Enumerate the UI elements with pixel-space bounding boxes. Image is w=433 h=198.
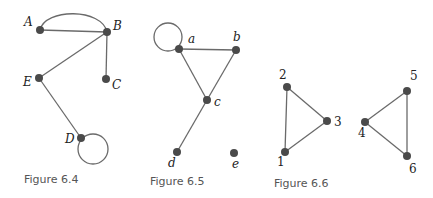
- edge-a-c: [179, 49, 207, 100]
- label-3: 3: [334, 115, 342, 129]
- label-A: A: [23, 15, 33, 29]
- node-B: [103, 28, 111, 36]
- edge-E-D: [39, 78, 81, 138]
- node-e: [230, 149, 238, 157]
- node-6: [403, 152, 411, 160]
- edge-B-C: [106, 32, 107, 79]
- caption-figure-6-5: Figure 6.5: [150, 175, 205, 188]
- label-6: 6: [409, 162, 417, 176]
- node-c: [203, 96, 211, 104]
- caption-figure-6-6: Figure 6.6: [274, 177, 329, 190]
- node-3: [323, 117, 331, 125]
- edge-4-5: [365, 91, 407, 122]
- figure-6-5: a b c d e Figure 6.5: [150, 23, 241, 188]
- label-1: 1: [277, 155, 285, 169]
- node-E: [35, 74, 43, 82]
- edge-2-3: [287, 87, 327, 121]
- label-B: B: [112, 19, 122, 33]
- label-C: C: [112, 78, 121, 92]
- node-4: [361, 118, 369, 126]
- node-C: [102, 75, 110, 83]
- node-a: [175, 45, 183, 53]
- label-4: 4: [358, 126, 366, 140]
- edge-b-c: [207, 50, 236, 100]
- label-a: a: [188, 32, 195, 46]
- graph-figures: A B C D E Figure 6.4 a b c d e Figure 6.…: [0, 0, 433, 198]
- label-b: b: [233, 30, 241, 44]
- label-5: 5: [410, 69, 418, 83]
- label-2: 2: [279, 68, 287, 82]
- edge-a-b: [179, 49, 236, 50]
- label-E: E: [22, 75, 32, 89]
- label-e: e: [232, 157, 239, 171]
- node-b: [232, 46, 240, 54]
- edge-1-3: [285, 121, 327, 152]
- node-2: [283, 83, 291, 91]
- node-A: [36, 26, 44, 34]
- caption-figure-6-4: Figure 6.4: [24, 173, 79, 186]
- node-D: [77, 134, 85, 142]
- edge-A-B: [40, 30, 107, 32]
- figure-6-6: 1 2 3 4 5 6 Figure 6.6: [274, 68, 418, 190]
- figure-6-4: A B C D E Figure 6.4: [22, 14, 122, 186]
- edge-c-d: [177, 100, 207, 152]
- edge-B-E: [39, 32, 107, 78]
- label-c: c: [214, 95, 221, 109]
- edge-4-6: [365, 122, 407, 156]
- edge-A-B-arc: [40, 14, 107, 32]
- label-d: d: [168, 156, 176, 170]
- edge-1-2: [285, 87, 287, 152]
- node-5: [403, 87, 411, 95]
- node-d: [173, 148, 181, 156]
- label-D: D: [64, 132, 75, 146]
